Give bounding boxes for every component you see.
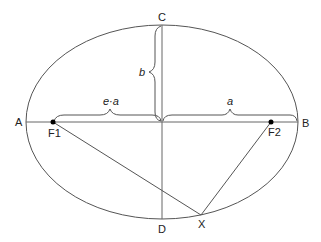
line-f2-x (201, 122, 271, 215)
label-a-brace: a (227, 95, 233, 107)
line-f1-x (53, 122, 201, 215)
label-x-point: X (198, 218, 206, 230)
label-ea-brace: e·a (103, 95, 119, 107)
brace-b (149, 26, 161, 121)
ellipse-diagram: A B C D F1 F2 X b e·a a (0, 0, 321, 242)
brace-ea (54, 109, 161, 121)
label-b-brace: b (139, 66, 145, 78)
label-b-point: B (302, 117, 309, 129)
focus-f1-dot (51, 120, 56, 125)
label-a-point: A (15, 116, 23, 128)
brace-a (163, 109, 297, 121)
diagram-canvas: A B C D F1 F2 X b e·a a (0, 0, 321, 242)
label-f1: F1 (48, 127, 61, 139)
label-c-point: C (158, 11, 166, 23)
label-d-point: D (158, 223, 166, 235)
label-f2: F2 (268, 126, 281, 138)
focus-f2-dot (269, 120, 274, 125)
